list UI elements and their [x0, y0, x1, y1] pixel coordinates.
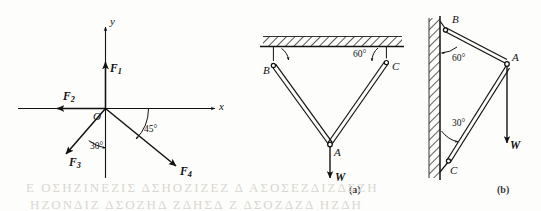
- angle-label-60-b: 60°: [452, 54, 465, 64]
- joint-B-b: [443, 28, 447, 32]
- point-label-B-a: B: [263, 65, 270, 76]
- angle-label-60-a: 60°: [353, 50, 366, 60]
- force-diagram-group: [18, 27, 215, 178]
- point-label-A-b: A: [512, 52, 519, 63]
- force-label-F3-sub: 3: [77, 161, 81, 170]
- force-label-F1-base: F: [110, 62, 118, 74]
- origin-label: O: [93, 111, 101, 122]
- force-label-F2-base: F: [63, 90, 71, 102]
- caption-a: (a): [349, 185, 361, 195]
- load-label-W-b: W: [510, 140, 520, 152]
- y-axis-label: y: [110, 16, 115, 27]
- member-BA-outer: [272, 67, 329, 146]
- joint-A-b: [505, 62, 510, 67]
- load-label-W-a: W: [335, 172, 345, 184]
- joint-C-a: [384, 61, 388, 65]
- force-label-F2-sub: 2: [71, 95, 75, 104]
- force-label-F4: F4: [180, 166, 192, 180]
- caption-b: (b): [497, 185, 509, 195]
- point-label-C-b: C: [450, 165, 457, 176]
- force-label-F2: F2: [63, 91, 75, 105]
- force-label-F1-sub: 1: [118, 67, 122, 76]
- point-label-B-b: B: [452, 14, 459, 25]
- ceiling-hatch: [263, 37, 402, 47]
- joint-C-b: [446, 159, 450, 163]
- angle-arc-C-a: [372, 48, 378, 61]
- force-label-F3: F3: [69, 157, 81, 171]
- angle-label-30-forces: 30°: [90, 142, 103, 152]
- member-CA-inner-b: [451, 68, 510, 162]
- member-BA-inner: [276, 64, 333, 142]
- panel-b-group: [429, 16, 510, 180]
- wall-hatch: [429, 18, 440, 178]
- x-axis-label: x: [219, 101, 224, 112]
- member-CA-outer-b: [447, 66, 506, 160]
- point-label-A-a: A: [334, 147, 341, 158]
- member-CA-outer: [331, 64, 388, 146]
- angle-label-45-forces: 45°: [144, 125, 157, 135]
- figure-canvas: y x O F1 F2 F3 F4 30° 45° B C A 60° W (a…: [0, 0, 541, 211]
- force-label-F4-sub: 4: [188, 170, 192, 179]
- point-label-C-a: C: [392, 61, 399, 72]
- force-label-F3-base: F: [69, 156, 77, 168]
- joint-B-a: [271, 63, 275, 67]
- force-label-F1: F1: [110, 63, 122, 77]
- angle-arc-C-b: [442, 131, 459, 142]
- force-label-F4-base: F: [180, 165, 188, 177]
- panel-a-group: [260, 37, 404, 179]
- angle-label-30-b: 30°: [452, 119, 465, 129]
- force-vector-F4: [106, 109, 177, 167]
- figure-linework: [0, 0, 541, 211]
- member-CA-inner: [328, 61, 385, 143]
- angle-arc-B-a: [282, 49, 289, 61]
